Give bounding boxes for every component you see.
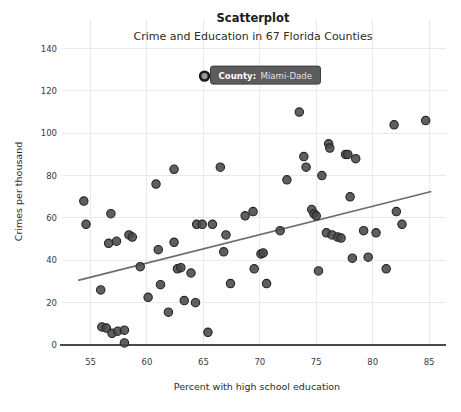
data-point[interactable] — [241, 212, 249, 220]
y-tick-label: 100 — [41, 128, 57, 138]
data-point[interactable] — [421, 116, 429, 124]
data-point[interactable] — [180, 296, 188, 304]
data-point[interactable] — [154, 246, 162, 254]
x-tick-label: 55 — [85, 357, 96, 367]
data-point[interactable] — [80, 197, 88, 205]
data-point[interactable] — [112, 237, 120, 245]
y-tick-label: 120 — [41, 86, 57, 96]
data-point[interactable] — [120, 326, 128, 334]
data-point[interactable] — [337, 234, 345, 242]
data-point[interactable] — [312, 212, 320, 220]
data-point[interactable] — [249, 207, 257, 215]
data-point[interactable] — [359, 226, 367, 234]
data-point[interactable] — [216, 163, 224, 171]
data-point[interactable] — [144, 293, 152, 301]
data-point[interactable] — [326, 144, 334, 152]
data-point[interactable] — [152, 180, 160, 188]
x-tick-label: 80 — [367, 357, 378, 367]
data-point[interactable] — [164, 308, 172, 316]
data-point[interactable] — [283, 176, 291, 184]
highlighted-data-point[interactable] — [200, 72, 209, 81]
data-point[interactable] — [392, 207, 400, 215]
data-point[interactable] — [222, 231, 230, 239]
x-tick-label: 70 — [254, 357, 265, 367]
tooltip-value-label: Miami-Dade — [261, 71, 313, 81]
y-tick-label: 0 — [52, 340, 57, 350]
data-point[interactable] — [346, 193, 354, 201]
data-point[interactable] — [177, 264, 185, 272]
data-point[interactable] — [295, 108, 303, 116]
data-point[interactable] — [382, 265, 390, 273]
x-axis-title: Percent with high school education — [174, 381, 340, 392]
y-axis-title: Crimes per thousand — [13, 142, 24, 241]
data-point[interactable] — [372, 229, 380, 237]
data-point[interactable] — [170, 165, 178, 173]
data-point[interactable] — [344, 150, 352, 158]
chart-subtitle: Crime and Education in 67 Florida Counti… — [134, 30, 373, 43]
chart-title: Scatterplot — [217, 11, 290, 25]
data-point[interactable] — [398, 220, 406, 228]
data-point[interactable] — [187, 269, 195, 277]
y-tick-label: 20 — [46, 298, 57, 308]
data-point[interactable] — [364, 253, 372, 261]
data-point[interactable] — [104, 239, 112, 247]
data-point[interactable] — [204, 328, 212, 336]
data-point[interactable] — [348, 254, 356, 262]
data-point[interactable] — [250, 265, 258, 273]
y-tick-label: 80 — [46, 171, 57, 181]
y-tick-label: 60 — [46, 213, 57, 223]
data-point[interactable] — [300, 152, 308, 160]
x-tick-label: 60 — [142, 357, 153, 367]
tooltip-key-label: County: — [219, 71, 257, 81]
data-point[interactable] — [128, 233, 136, 241]
x-tick-label: 85 — [424, 357, 435, 367]
data-point[interactable] — [107, 210, 115, 218]
data-point[interactable] — [390, 121, 398, 129]
data-point[interactable] — [276, 226, 284, 234]
data-point[interactable] — [302, 163, 310, 171]
data-point[interactable] — [97, 286, 105, 294]
y-tick-label: 40 — [46, 255, 57, 265]
y-tick-label: 140 — [41, 44, 57, 54]
data-point[interactable] — [226, 279, 234, 287]
data-point[interactable] — [170, 238, 178, 246]
scatterplot-chart: 55606570758085020406080100120140Percent … — [0, 0, 461, 412]
data-point[interactable] — [156, 280, 164, 288]
data-point[interactable] — [120, 339, 128, 347]
data-point[interactable] — [314, 267, 322, 275]
chart-canvas: 55606570758085020406080100120140Percent … — [0, 0, 461, 412]
data-point[interactable] — [136, 262, 144, 270]
data-point[interactable] — [352, 154, 360, 162]
tooltip: County:Miami-Dade — [211, 66, 321, 84]
x-tick-label: 65 — [198, 357, 209, 367]
data-points-group — [80, 108, 430, 347]
x-tick-label: 75 — [311, 357, 322, 367]
data-point[interactable] — [208, 220, 216, 228]
data-point[interactable] — [198, 220, 206, 228]
data-point[interactable] — [318, 171, 326, 179]
data-point[interactable] — [262, 279, 270, 287]
data-point[interactable] — [259, 249, 267, 257]
data-point[interactable] — [191, 298, 199, 306]
data-point[interactable] — [220, 248, 228, 256]
data-point[interactable] — [82, 220, 90, 228]
